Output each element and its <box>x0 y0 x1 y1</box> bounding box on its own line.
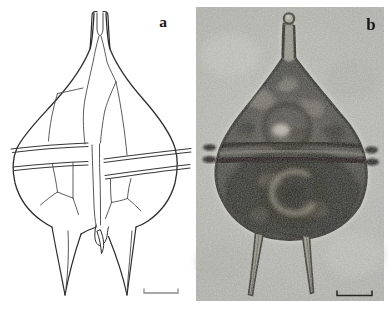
hypotheca-sutures <box>41 163 142 219</box>
scale-bar-a <box>144 289 178 294</box>
panel-b-label: b <box>366 15 375 34</box>
antapical-horns-drawing <box>52 225 136 295</box>
cingulum-drawing <box>11 143 191 179</box>
figure-dinoflagellate: a <box>0 0 390 312</box>
body-outline <box>13 13 177 227</box>
sulcus-drawing <box>92 144 101 227</box>
figure-canvas: a <box>0 0 390 312</box>
panel-b: b <box>196 7 385 301</box>
panel-a-label: a <box>159 13 167 30</box>
panel-a: a <box>11 12 191 296</box>
dinoflagellate-drawing <box>11 12 191 296</box>
photo-grain-dark <box>196 7 384 301</box>
